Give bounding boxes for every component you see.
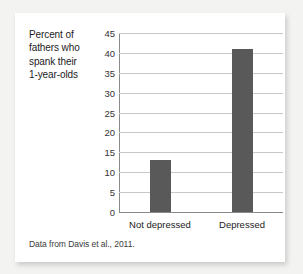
y-axis-tick-label: 35 <box>104 67 115 78</box>
y-axis-tick-label: 5 <box>110 187 115 198</box>
y-axis-tick-label: 10 <box>104 167 115 178</box>
gridline <box>119 172 283 173</box>
gridline <box>119 212 283 213</box>
gridline <box>119 113 283 114</box>
gridline <box>119 132 283 133</box>
figure-card: Percent of fathers who spank their 1-yea… <box>15 13 285 262</box>
x-axis-tick-label: Not depressed <box>129 219 191 230</box>
x-axis-tick-label: Depressed <box>219 219 265 230</box>
y-axis-tick-label: 30 <box>104 87 115 98</box>
gridline <box>119 93 283 94</box>
gridline <box>119 33 283 34</box>
y-axis-tick-label: 0 <box>110 207 115 218</box>
y-axis-tick-label: 40 <box>104 47 115 58</box>
y-axis-tick-label: 20 <box>104 127 115 138</box>
gridline <box>119 152 283 153</box>
gridline <box>119 53 283 54</box>
y-axis-tick-label: 45 <box>104 28 115 39</box>
y-axis-line <box>119 33 120 212</box>
gridline <box>119 73 283 74</box>
bar-chart-plot-area: 051015202530354045 Not depressedDepresse… <box>119 33 283 212</box>
bar <box>232 49 253 212</box>
y-axis-tick-label: 15 <box>104 147 115 158</box>
source-note: Data from Davis et al., 2011. <box>29 239 135 249</box>
y-axis-tick-label: 25 <box>104 107 115 118</box>
gridline <box>119 192 283 193</box>
bar <box>150 160 171 212</box>
